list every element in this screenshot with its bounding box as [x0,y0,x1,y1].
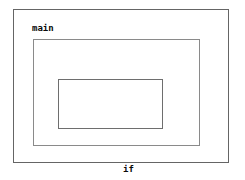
scope-label-main: main [32,23,54,33]
scope-box-if: if int first; [58,79,163,129]
scope-diagram-canvas: main int first,second; while int second;… [0,0,245,180]
scope-label-if: if [123,164,134,174]
